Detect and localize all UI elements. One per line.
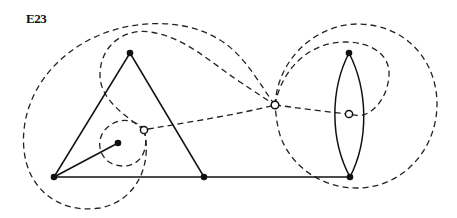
dual-edge-outer-to-lens — [275, 105, 349, 114]
dual-vertex-lens-face — [345, 110, 352, 117]
vertex-bottom-left — [51, 174, 58, 181]
vertex-lens-top — [346, 50, 353, 57]
primal-vertices — [51, 50, 354, 181]
dual-vertex-outer-face — [271, 101, 279, 109]
primal-edges — [54, 53, 364, 177]
dual-vertex-small-face — [140, 126, 147, 133]
vertex-lens-bottom — [347, 174, 354, 181]
triangle-right-side — [130, 53, 204, 177]
big-left-loop — [23, 24, 275, 209]
upper-curve-inner — [100, 31, 275, 130]
dual-edges — [23, 24, 437, 209]
dual-edge-small-to-outer — [148, 105, 275, 129]
small-loop — [100, 120, 146, 166]
lens-loop — [275, 42, 389, 115]
dual-vertices — [140, 101, 352, 133]
vertex-triangle-top — [127, 50, 134, 57]
vertex-bottom-middle — [201, 174, 208, 181]
vertex-inner-dot — [115, 140, 122, 147]
plane-graph-with-dual-diagram — [0, 0, 457, 218]
triangle-left-side — [54, 53, 130, 177]
